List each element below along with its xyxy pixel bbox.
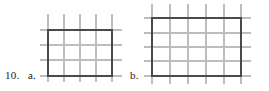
part-label-b: b. xyxy=(130,70,139,81)
figure-a-grid xyxy=(40,14,122,82)
problem-number: 10. xyxy=(5,70,19,81)
figure-b-grid xyxy=(144,4,251,84)
part-label-a: a. xyxy=(28,70,36,81)
